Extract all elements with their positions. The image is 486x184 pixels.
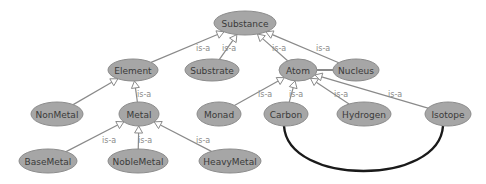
node-label: Isotope [431,110,465,120]
node-basemetal[interactable]: BaseMetal [19,149,77,173]
inheritance-arrowhead-icon [216,31,224,38]
edge-label-is-a: is-a [196,136,210,145]
node-label: Hydrogen [342,110,386,120]
node-label: BaseMetal [25,157,72,167]
node-label: HeavyMetal [203,157,256,167]
edge-label-is-a: is-a [196,44,210,53]
node-nucleus[interactable]: Nucleus [333,59,379,81]
nodes-layer: SubstanceElementSubstrateAtomNucleusNonM… [19,11,471,173]
inheritance-arrowhead-icon [289,81,297,89]
edge-label-is-a: is-a [138,136,152,145]
node-label: NobleMetal [113,157,164,167]
edge-element-substance[interactable] [151,31,224,63]
inheritance-arrowhead-icon [310,78,318,85]
edges-layer [66,31,443,171]
node-label: Monad [204,110,234,120]
edge-label-is-a: is-a [222,44,236,53]
relation-curve-carbon-isotope[interactable] [284,126,443,171]
node-label: Element [114,66,152,76]
node-metal[interactable]: Metal [119,102,159,126]
node-label: Atom [286,66,310,76]
node-label: Substance [221,19,269,29]
inheritance-arrowhead-icon [135,126,143,133]
node-substrate[interactable]: Substrate [185,59,239,81]
node-carbon[interactable]: Carbon [264,102,308,126]
node-noblemetal[interactable]: NobleMetal [108,149,168,173]
edge-label-is-a: is-a [334,90,348,99]
edge-label-is-a: is-a [388,90,402,99]
node-hydrogen[interactable]: Hydrogen [337,102,391,126]
node-label: NonMetal [36,110,79,120]
inheritance-arrowhead-icon [266,31,274,38]
node-monad[interactable]: Monad [197,102,241,126]
node-heavymetal[interactable]: HeavyMetal [199,149,261,173]
edge-label-is-a: is-a [316,44,330,53]
node-nonmetal[interactable]: NonMetal [31,102,83,126]
edge-nonmetal-element[interactable] [73,79,118,105]
edge-label-is-a: is-a [272,44,286,53]
edge-label-is-a: is-a [137,90,151,99]
node-label: Carbon [270,110,302,120]
node-label: Nucleus [338,66,374,76]
inheritance-arrowhead-icon [230,35,237,43]
node-isotope[interactable]: Isotope [425,102,471,126]
node-element[interactable]: Element [108,59,158,81]
ontology-graph-canvas: is-ais-ais-ais-ais-ais-ais-ais-ais-ais-a… [0,0,486,184]
edge-label-is-a: is-a [258,90,272,99]
edge-label-is-a: is-a [102,136,116,145]
node-substance[interactable]: Substance [214,11,276,35]
edge-label-is-a: is-a [289,90,303,99]
node-atom[interactable]: Atom [279,59,317,81]
node-label: Substrate [190,66,234,76]
node-label: Metal [127,110,152,120]
inheritance-arrowhead-icon [131,81,139,88]
